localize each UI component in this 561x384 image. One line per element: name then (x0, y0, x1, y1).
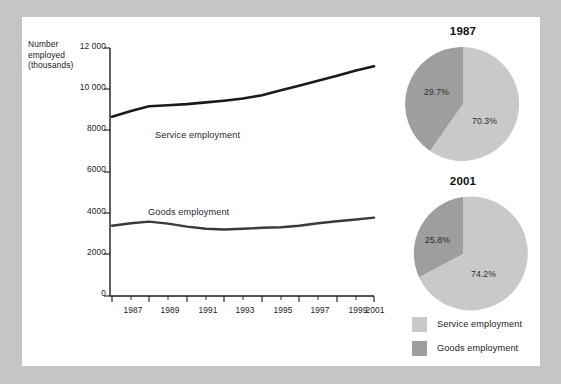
series-label-goods-employment: Goods employment (148, 207, 229, 217)
legend-label-service-employment: Service employment (437, 319, 522, 329)
legend-label-goods-employment: Goods employment (437, 343, 518, 353)
pie-1987-label-goods: 29.7% (424, 87, 449, 97)
pie-title-1987: 1987 (398, 25, 528, 37)
pie-title-2001: 2001 (398, 175, 528, 187)
legend-swatch-service-icon (412, 317, 427, 332)
pie-1987-graphic (398, 43, 528, 165)
legend-swatch-goods-icon (412, 341, 427, 356)
series-line-service-employment (112, 66, 374, 116)
y-axis-ticks (104, 48, 110, 296)
figure-root: Number employed (thousands) 12 000 10 00… (0, 0, 561, 384)
pie-chart-1987: 1987 29.7% 70.3% (398, 25, 528, 165)
line-chart: Number employed (thousands) 12 000 10 00… (22, 17, 402, 347)
chart-panel: Number employed (thousands) 12 000 10 00… (22, 17, 540, 366)
series-line-goods-employment (112, 218, 374, 230)
series-label-service-employment: Service employment (155, 130, 240, 140)
pie-chart-2001: 2001 25.8% 74.2% (398, 175, 528, 315)
pie-2001-label-goods: 25.8% (425, 235, 450, 245)
line-chart-plot (22, 17, 402, 347)
pie-2001-graphic (398, 193, 528, 315)
pie-2001-label-service: 74.2% (471, 269, 496, 279)
pie-1987-label-service: 70.3% (472, 116, 497, 126)
